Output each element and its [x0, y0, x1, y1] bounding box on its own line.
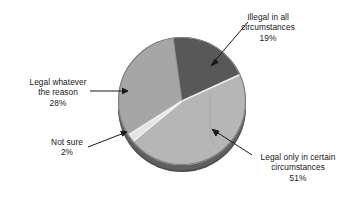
slice-label-legal-certain-line1: Legal only in certain	[238, 152, 358, 162]
slice-label-legal-whatever-value: 28%	[8, 98, 108, 108]
slice-label-not-sure: Not sure 2%	[30, 137, 104, 158]
slice-label-illegal-value: 19%	[216, 33, 320, 43]
pie-chart-svg	[117, 36, 247, 174]
slice-label-legal-whatever-line1: Legal whatever	[8, 77, 108, 87]
slice-label-not-sure-value: 2%	[30, 147, 104, 157]
slice-label-illegal-line1: Illegal in all	[216, 12, 320, 22]
slice-label-legal-whatever: Legal whatever the reason 28%	[8, 77, 108, 108]
slice-label-legal-certain-value: 51%	[238, 173, 358, 183]
slice-label-not-sure-line1: Not sure	[30, 137, 104, 147]
pie-chart	[117, 36, 247, 174]
slice-label-legal-whatever-line2: the reason	[8, 87, 108, 97]
pie-chart-figure: Illegal in all circumstances 19% Legal o…	[0, 0, 360, 208]
slice-label-legal-certain-line2: circumstances	[238, 162, 358, 172]
slice-label-illegal-line2: circumstances	[216, 22, 320, 32]
slice-label-illegal: Illegal in all circumstances 19%	[216, 12, 320, 43]
slice-label-legal-certain: Legal only in certain circumstances 51%	[238, 152, 358, 183]
